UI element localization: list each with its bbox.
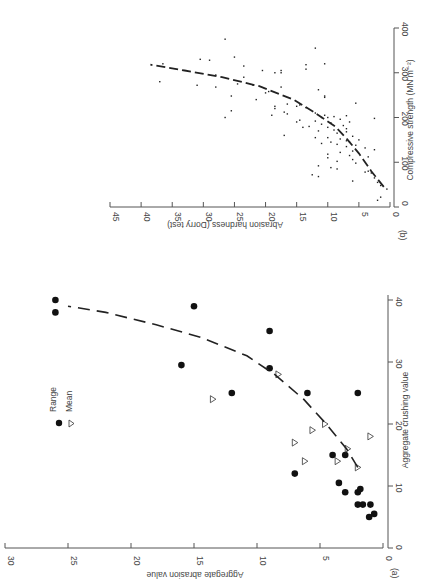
data-point bbox=[352, 150, 353, 151]
data-point bbox=[308, 126, 309, 127]
data-point bbox=[265, 92, 266, 93]
data-point bbox=[355, 162, 356, 163]
tick-group-b-hardness: 051015202530354045 bbox=[110, 202, 401, 222]
data-point bbox=[380, 185, 381, 186]
tick-label: 0 bbox=[391, 212, 401, 217]
data-point bbox=[287, 113, 288, 114]
data-point bbox=[312, 174, 313, 175]
data-point bbox=[234, 56, 235, 57]
data-point bbox=[355, 102, 356, 103]
data-point-range bbox=[304, 390, 311, 397]
data-point bbox=[231, 95, 232, 96]
data-point bbox=[318, 89, 319, 90]
data-point bbox=[215, 86, 216, 87]
panel-label-b: (b) bbox=[398, 230, 408, 241]
data-point-range bbox=[342, 489, 349, 496]
data-point bbox=[364, 147, 365, 148]
data-point bbox=[318, 165, 319, 166]
scatter-b bbox=[159, 38, 388, 200]
data-point-range bbox=[229, 390, 236, 397]
tick-label: 30 bbox=[6, 556, 16, 566]
legend: Range Mean bbox=[48, 387, 74, 427]
data-point bbox=[296, 106, 297, 107]
data-point bbox=[243, 65, 244, 66]
data-point bbox=[271, 115, 272, 116]
data-point bbox=[346, 115, 347, 116]
data-point bbox=[200, 59, 201, 60]
data-point-mean bbox=[335, 458, 341, 465]
data-point bbox=[333, 129, 334, 130]
tick-label: 25 bbox=[69, 556, 79, 566]
data-point bbox=[196, 85, 197, 86]
data-point-range bbox=[292, 470, 299, 477]
tick-label: 15 bbox=[298, 212, 308, 222]
data-point bbox=[340, 152, 341, 153]
data-point bbox=[321, 143, 322, 144]
data-point bbox=[224, 117, 225, 118]
axis-label-b-hardness: Abrasion hardness (Dorry test) bbox=[167, 220, 283, 230]
data-point bbox=[374, 177, 375, 178]
axis-label-a-abrasion: Aggregate abrasion value bbox=[146, 570, 243, 580]
data-point bbox=[315, 112, 316, 113]
tick-label: 10 bbox=[329, 212, 339, 222]
trend-line-a bbox=[68, 306, 358, 467]
panel-b: 051015202530354045 0100200300400 Abrasio… bbox=[110, 22, 415, 241]
data-point bbox=[377, 182, 378, 183]
tick-label: 45 bbox=[111, 212, 121, 222]
legend-mean-label: Mean bbox=[64, 390, 74, 412]
data-point bbox=[346, 146, 347, 147]
panel-a: 051015202530 010203040 Aggregate abrasio… bbox=[5, 295, 410, 580]
data-point bbox=[380, 196, 381, 197]
data-point-mean bbox=[292, 439, 298, 446]
data-point bbox=[333, 116, 334, 117]
data-point bbox=[324, 63, 325, 64]
data-point bbox=[315, 137, 316, 138]
figure: 051015202530354045 0100200300400 Abrasio… bbox=[0, 0, 429, 586]
data-point bbox=[243, 77, 244, 78]
data-point-mean bbox=[368, 433, 374, 440]
data-point bbox=[268, 91, 269, 92]
data-point bbox=[327, 117, 328, 118]
data-point bbox=[336, 168, 337, 169]
data-point bbox=[368, 171, 369, 172]
trend-line-b bbox=[150, 65, 383, 187]
data-point bbox=[340, 119, 341, 120]
data-point-range bbox=[178, 362, 185, 369]
data-point-range bbox=[266, 328, 273, 335]
tick-group-a-abrasion: 051015202530 bbox=[5, 543, 394, 566]
data-point bbox=[315, 47, 316, 48]
data-point bbox=[296, 121, 297, 122]
scatter-a-range bbox=[52, 297, 377, 521]
data-point bbox=[274, 106, 275, 107]
data-point bbox=[374, 149, 375, 150]
tick-label: 0 bbox=[384, 556, 394, 561]
data-point bbox=[280, 70, 281, 71]
data-point bbox=[231, 110, 232, 111]
data-point bbox=[318, 176, 319, 177]
data-point bbox=[274, 108, 275, 109]
data-point bbox=[274, 72, 275, 73]
panel-label-a: (a) bbox=[390, 568, 400, 579]
data-point bbox=[327, 153, 328, 154]
data-point bbox=[305, 68, 306, 69]
data-point-mean bbox=[310, 427, 316, 434]
data-point bbox=[237, 83, 238, 84]
data-point bbox=[324, 95, 325, 96]
data-point bbox=[162, 63, 163, 64]
data-point-mean bbox=[210, 396, 216, 403]
data-point bbox=[355, 145, 356, 146]
tick-label: 40 bbox=[394, 297, 404, 307]
data-point-range bbox=[355, 390, 362, 397]
data-point bbox=[349, 155, 350, 156]
data-point-range bbox=[336, 480, 343, 487]
data-point bbox=[305, 64, 306, 65]
data-point bbox=[340, 138, 341, 139]
data-point bbox=[358, 139, 359, 140]
data-point bbox=[368, 156, 369, 157]
legend-range-label: Range bbox=[48, 387, 58, 412]
data-point bbox=[262, 70, 263, 71]
data-point bbox=[346, 131, 347, 132]
data-point bbox=[327, 137, 328, 138]
data-point bbox=[284, 135, 285, 136]
data-point bbox=[374, 118, 375, 119]
